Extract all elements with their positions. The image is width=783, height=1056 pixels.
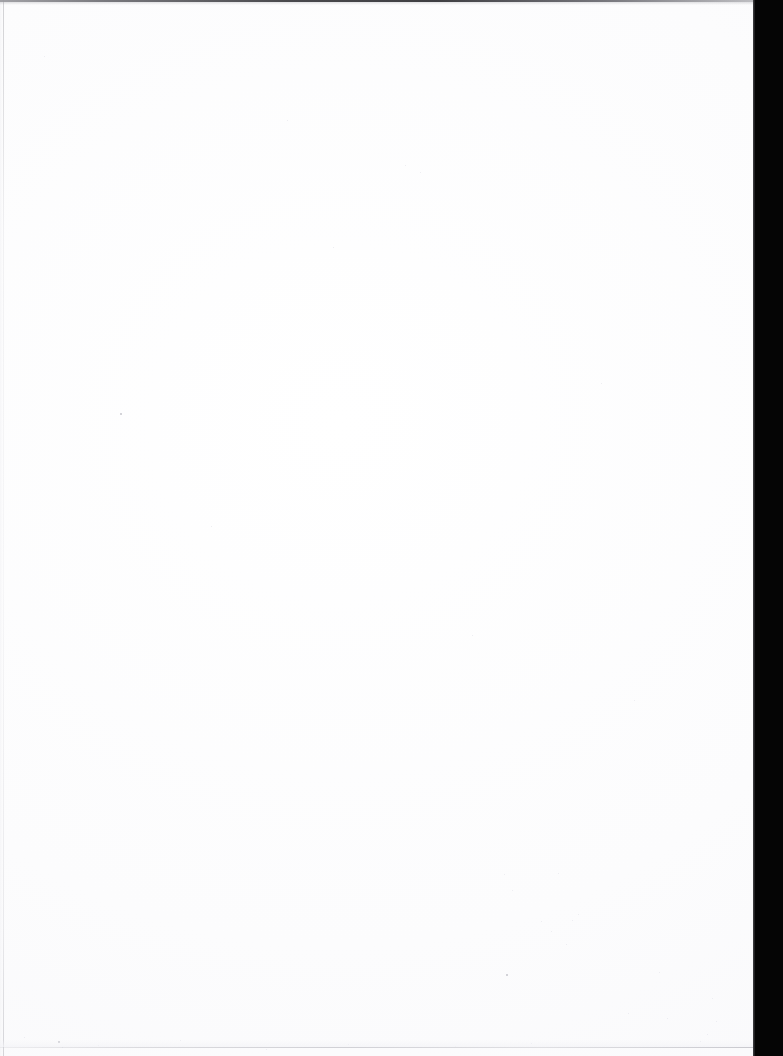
scanner-gutter [753, 0, 783, 1056]
left-page-edge-line [3, 0, 4, 1056]
bottom-edge-shadow [0, 1040, 753, 1047]
paper-illumination-gradient [0, 0, 753, 1056]
top-edge-shadow [0, 2, 753, 5]
top-scan-line [0, 0, 753, 2]
scanner-gutter-edge [753, 0, 755, 1056]
scanned-page-canvas [0, 0, 783, 1056]
bottom-page-edge-line [0, 1047, 753, 1048]
page-paper-surface [0, 0, 753, 1056]
